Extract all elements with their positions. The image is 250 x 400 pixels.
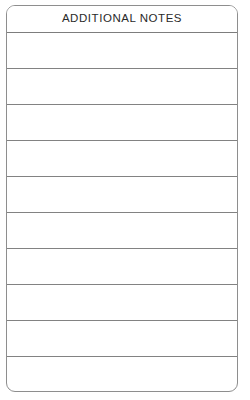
note-line-row[interactable] [7,213,237,249]
note-line-text[interactable] [12,321,232,355]
note-line-row[interactable] [7,105,237,141]
note-line-row[interactable] [7,249,237,285]
note-line-text[interactable] [12,249,232,283]
note-line-row[interactable] [7,141,237,177]
note-line-text[interactable] [12,357,232,391]
note-line-row[interactable] [7,357,237,392]
note-line-row[interactable] [7,285,237,321]
note-line-row[interactable] [7,321,237,357]
note-line-text[interactable] [12,105,232,139]
note-line-text[interactable] [12,141,232,175]
note-line-row[interactable] [7,33,237,69]
notes-ruled-area [7,33,237,392]
note-line-row[interactable] [7,177,237,213]
note-line-text[interactable] [12,69,232,103]
page-title: ADDITIONAL NOTES [62,13,182,25]
note-line-text[interactable] [12,213,232,247]
note-line-row[interactable] [7,69,237,105]
notes-header: ADDITIONAL NOTES [7,6,237,33]
note-line-text[interactable] [12,177,232,211]
additional-notes-form: ADDITIONAL NOTES [6,5,238,392]
note-line-text[interactable] [12,33,232,67]
note-line-text[interactable] [12,285,232,319]
